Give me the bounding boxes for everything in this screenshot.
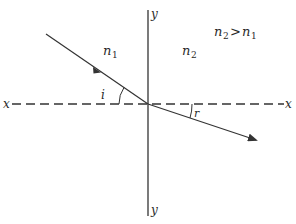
svg-text:1: 1 [112,50,118,60]
angle-i-arc [119,88,124,105]
refraction-diagram: x x y y i r n 1 n 2 n 2 > n 1 [0,0,296,224]
svg-text:2: 2 [191,50,197,60]
svg-text:1: 1 [251,31,257,41]
incident-ray [46,34,148,104]
medium-n2-label: n 2 [182,43,197,60]
svg-text:2: 2 [223,31,229,41]
svg-text:n: n [103,43,111,58]
svg-text:n: n [182,43,190,58]
angle-i-label: i [101,88,105,102]
condition-label: n 2 > n 1 [214,24,257,41]
angle-r-arc [190,104,192,118]
y-axis-label-top: y [150,7,158,21]
y-axis-label-bottom: y [150,203,158,217]
medium-n1-label: n 1 [103,43,118,60]
x-axis-label-right: x [285,97,292,111]
svg-text:n: n [242,24,250,39]
refracted-ray [148,104,256,140]
svg-text:n: n [214,24,222,39]
svg-text:>: > [230,24,241,39]
x-axis-label-left: x [3,97,10,111]
angle-r-label: r [194,107,200,120]
